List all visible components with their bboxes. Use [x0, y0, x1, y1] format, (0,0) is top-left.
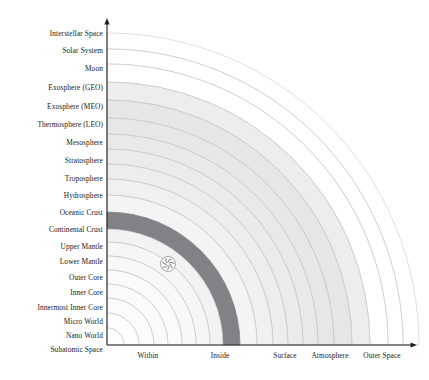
x-axis-tick-label: Inside — [211, 351, 230, 360]
x-axis-tick-label: Atmosphere — [311, 351, 348, 360]
x-axis-tick-label: Surface — [273, 351, 296, 360]
chart-canvas: Interstellar SpaceSolar SystemMoonExosph… — [0, 0, 429, 380]
x-axis-tick-label: Within — [138, 351, 159, 360]
x-axis-tick-label: Outer Space — [363, 351, 400, 360]
x-axis-tick-labels: WithinInsideSurfaceAtmosphereOuter Space — [0, 0, 429, 380]
